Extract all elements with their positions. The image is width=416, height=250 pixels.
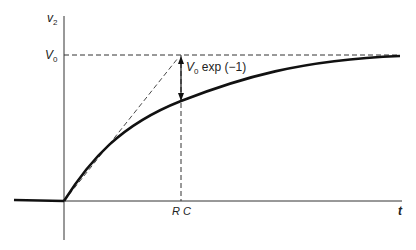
rc-curve-plot: [0, 0, 416, 250]
y-axis-label: v2: [47, 12, 57, 29]
exp-annotation: V0 exp (−1): [186, 61, 246, 78]
t-label: t: [398, 205, 402, 217]
v0-label: V0: [45, 49, 57, 66]
initial-tangent: [64, 58, 178, 201]
rc-label: R C: [172, 205, 191, 217]
diagram: v2 V0 V0 exp (−1) R C t: [0, 0, 416, 250]
arrow-head-up-icon: [178, 56, 184, 64]
initial-baseline: [14, 200, 64, 201]
